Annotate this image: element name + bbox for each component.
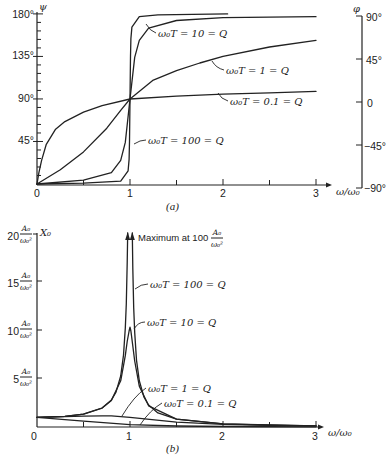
x-tick-label: 0 bbox=[31, 430, 37, 442]
label-q100: ω₀T = 100 = Q bbox=[150, 279, 226, 290]
x-axis-arrow-icon bbox=[326, 183, 332, 188]
svg-text:5: 5 bbox=[13, 373, 19, 385]
y2-tick-label: 45° bbox=[366, 54, 382, 66]
label-q01: ω₀T = 0.1 = Q bbox=[164, 398, 236, 409]
y-axis-psi-label: ψ bbox=[39, 1, 47, 12]
label-q1: ω₀T = 1 = Q bbox=[148, 383, 211, 394]
y-tick-label: 45° bbox=[18, 134, 34, 146]
x-tick-label: 1 bbox=[127, 187, 133, 199]
leader-line bbox=[212, 61, 224, 70]
svg-text:ω₀²: ω₀² bbox=[20, 331, 32, 340]
arrow-up-icon bbox=[130, 232, 135, 240]
panel-caption-b: (b) bbox=[166, 442, 179, 455]
panel-b: X₀ 20 A₀ ω₀² 15 A₀ ω₀² 10 A₀ ω₀² 5 A₀ ω₀… bbox=[7, 224, 351, 455]
x-axis-ticks bbox=[84, 179, 317, 185]
y2-tick-label: −90° bbox=[364, 182, 386, 194]
svg-text:ω₀²: ω₀² bbox=[211, 240, 223, 249]
svg-text:10: 10 bbox=[7, 325, 19, 337]
svg-text:Maximum at 100: Maximum at 100 bbox=[138, 232, 208, 243]
leader-line bbox=[134, 140, 146, 144]
y-axis-psi-ticks bbox=[33, 14, 43, 176]
y-tick-label-10: 10 A₀ ω₀² bbox=[7, 319, 32, 340]
y2-tick-label: −45° bbox=[364, 140, 386, 152]
arrow-up-icon bbox=[125, 232, 130, 240]
y-tick-label-20: 20 A₀ ω₀² bbox=[7, 224, 32, 245]
figure: ψ 180° 135° 90° 45° 0 1 2 3 ω/ω₀ φ bbox=[0, 0, 392, 459]
x-tick-label: 1 bbox=[126, 430, 132, 442]
y-tick-label-15: 15 A₀ ω₀² bbox=[7, 271, 32, 292]
svg-text:A₀: A₀ bbox=[212, 228, 221, 237]
x-axis-arrow-icon bbox=[318, 425, 324, 430]
label-q1: ω₀T = 1 = Q bbox=[226, 65, 289, 76]
svg-text:15: 15 bbox=[7, 277, 19, 289]
panel-caption-a: (a) bbox=[166, 200, 179, 213]
panel-a: ψ 180° 135° 90° 45° 0 1 2 3 ω/ω₀ φ bbox=[12, 1, 386, 213]
svg-text:A₀: A₀ bbox=[21, 224, 30, 233]
y-tick-label-5: 5 A₀ ω₀² bbox=[13, 367, 32, 388]
y-axis-x0-label: X₀ bbox=[39, 227, 51, 238]
x-tick-label: 2 bbox=[219, 430, 225, 442]
x-tick-label: 0 bbox=[34, 187, 40, 199]
y2-axis-ticks bbox=[356, 16, 362, 188]
svg-text:ω₀²: ω₀² bbox=[20, 283, 32, 292]
svg-text:A₀: A₀ bbox=[21, 367, 30, 376]
x-tick-label: 2 bbox=[220, 187, 226, 199]
curve-line bbox=[37, 327, 316, 426]
peak-annotation: Maximum at 100 A₀ ω₀² bbox=[138, 228, 223, 249]
y2-tick-label: 0 bbox=[367, 97, 373, 109]
curve-line bbox=[37, 40, 316, 184]
label-q100: ω₀T = 100 = Q bbox=[148, 135, 224, 146]
x-axis-label: ω/ω₀ bbox=[328, 427, 352, 438]
svg-text:A₀: A₀ bbox=[21, 271, 30, 280]
y2-tick-label: 90° bbox=[366, 11, 382, 23]
svg-text:A₀: A₀ bbox=[21, 319, 30, 328]
curve-line bbox=[132, 233, 316, 426]
x-tick-label: 3 bbox=[312, 430, 318, 442]
curve-line bbox=[37, 233, 128, 417]
y-tick-label: 180° bbox=[12, 8, 34, 20]
label-q10: ω₀T = 10 = Q bbox=[158, 28, 227, 39]
leader-line bbox=[134, 322, 145, 329]
label-q01: ω₀T = 0.1 = Q bbox=[230, 96, 302, 107]
x-tick-label: 3 bbox=[313, 187, 319, 199]
label-q10: ω₀T = 10 = Q bbox=[147, 317, 216, 328]
svg-text:ω₀²: ω₀² bbox=[20, 379, 32, 388]
y-tick-label: 90° bbox=[18, 92, 34, 104]
y-tick-label: 135° bbox=[12, 49, 34, 61]
leader-line bbox=[135, 284, 148, 289]
svg-text:ω₀²: ω₀² bbox=[20, 236, 32, 245]
y2-axis-phi-label: φ bbox=[353, 3, 360, 14]
svg-text:20: 20 bbox=[7, 230, 19, 242]
